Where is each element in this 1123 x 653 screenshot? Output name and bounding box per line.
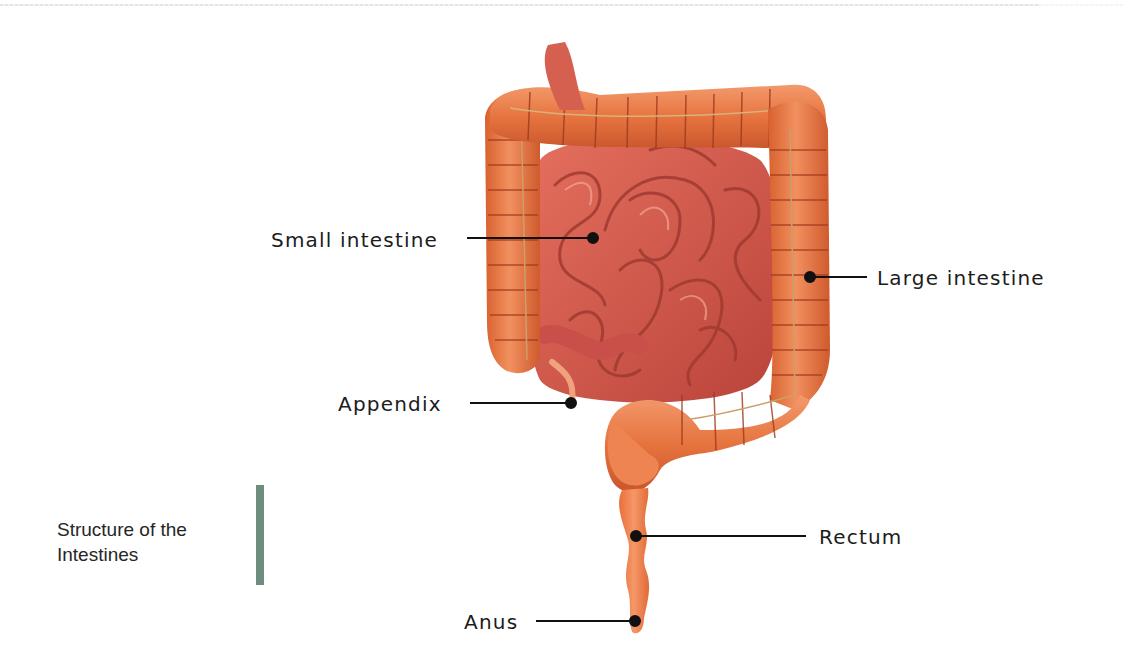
diagram-caption: Structure of the Intestines	[57, 517, 247, 567]
label-large-intestine: Large intestine	[877, 266, 1045, 290]
label-anus: Anus	[464, 610, 518, 634]
sigmoid-colon-shape	[605, 392, 810, 492]
label-small-intestine: Small intestine	[271, 228, 438, 252]
label-appendix: Appendix	[338, 392, 442, 416]
small-intestine-shape	[525, 138, 783, 403]
descending-colon-shape	[768, 102, 830, 410]
caption-line-2: Intestines	[57, 542, 247, 567]
caption-accent-bar	[256, 485, 264, 585]
rectum-shape	[619, 488, 649, 633]
label-rectum: Rectum	[819, 525, 903, 549]
caption-line-1: Structure of the	[57, 517, 247, 542]
